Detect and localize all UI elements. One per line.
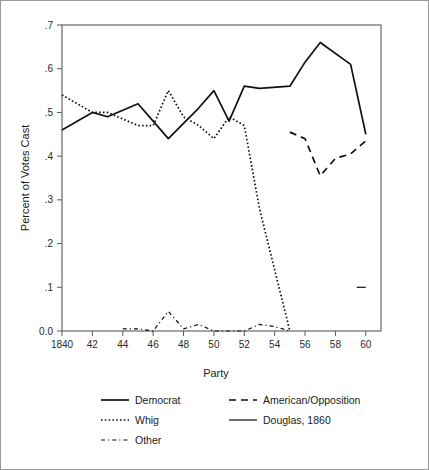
y-axis-title: Percent of Votes Cast	[19, 125, 31, 231]
series-line-democrat	[62, 42, 366, 138]
x-tick-label: 1840	[51, 339, 74, 350]
x-tick-label: 60	[360, 339, 372, 350]
legend-label-whig: Whig	[135, 414, 159, 426]
y-tick-label: .6	[45, 63, 54, 74]
x-tick-label: 44	[117, 339, 129, 350]
series-line-american-opposition	[290, 132, 366, 176]
x-tick-label: 56	[299, 339, 311, 350]
x-tick-label: 52	[239, 339, 251, 350]
legend-label-american-opposition: American/Opposition	[263, 394, 361, 406]
y-tick-label: .5	[45, 107, 54, 118]
series-line-whig	[62, 91, 290, 331]
x-axis: 184042444648505254565860	[51, 331, 372, 350]
y-tick-label: .4	[45, 151, 54, 162]
x-tick-label: 42	[87, 339, 99, 350]
x-tick-label: 58	[330, 339, 342, 350]
x-tick-label: 48	[178, 339, 190, 350]
legend-label-douglas-1860: Douglas, 1860	[263, 414, 331, 426]
x-axis-title: Party	[203, 367, 229, 379]
series-line-other	[123, 311, 290, 331]
chart-legend: DemocratWhigOtherAmerican/OppositionDoug…	[101, 394, 361, 446]
legend-label-democrat: Democrat	[135, 394, 181, 406]
x-tick-label: 50	[208, 339, 220, 350]
series-group	[62, 42, 366, 331]
y-tick-label: .1	[45, 282, 54, 293]
line-chart: 0.0.1.2.3.4.5.6.7 1840424446485052545658…	[1, 1, 429, 470]
y-tick-label: 0.0	[39, 326, 53, 337]
x-tick-label: 54	[269, 339, 281, 350]
legend-label-other: Other	[135, 434, 162, 446]
chart-figure: 0.0.1.2.3.4.5.6.7 1840424446485052545658…	[0, 0, 429, 470]
plot-frame	[62, 25, 381, 331]
y-tick-label: .7	[45, 20, 54, 31]
y-tick-label: .3	[45, 194, 54, 205]
y-tick-label: .2	[45, 238, 54, 249]
y-axis: 0.0.1.2.3.4.5.6.7	[39, 20, 62, 337]
x-tick-label: 46	[148, 339, 160, 350]
